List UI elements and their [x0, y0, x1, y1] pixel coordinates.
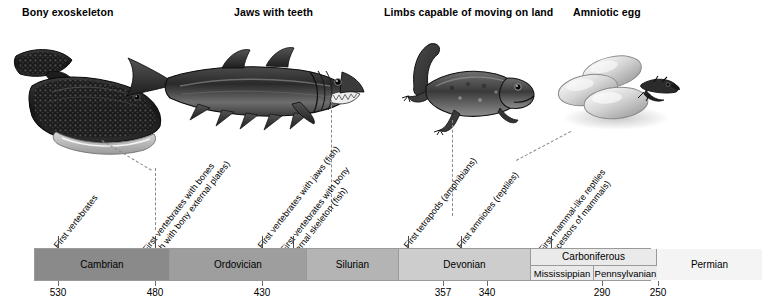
period-silurian[interactable]: Silurian: [307, 249, 399, 280]
event-tick-first-vertebrates: [58, 236, 59, 248]
leader-line-armored-fish-drop: [155, 168, 156, 230]
axis-tick-250: [658, 281, 659, 286]
subperiod-mississippian[interactable]: Mississippian: [531, 265, 594, 280]
axis-tick-290: [602, 281, 603, 286]
period-label: Silurian: [307, 259, 398, 270]
period-cambrian[interactable]: Cambrian: [35, 249, 170, 280]
feature-heading-limbs-on-land: Limbs capable of moving on land: [384, 6, 553, 18]
illustration-tetrapod-amphibian: [396, 38, 536, 138]
period-label: Cambrian: [35, 259, 169, 270]
period-carboniferous[interactable]: Carboniferous Mississippian Pennsylvania…: [531, 249, 657, 280]
event-tick-first-tetrapods: [408, 236, 409, 248]
event-line: (fish with bony external plates): [149, 159, 232, 261]
feature-heading-jaws-with-teeth: Jaws with teeth: [234, 6, 313, 18]
feature-heading-amniotic-egg: Amniotic egg: [573, 6, 641, 18]
axis-date-357: 357: [423, 287, 463, 298]
axis-tick-357: [443, 281, 444, 286]
axis-date-430: 430: [242, 287, 282, 298]
axis-date-250: 250: [638, 287, 678, 298]
axis-date-480: 480: [135, 287, 175, 298]
subperiod-label: Mississippian: [531, 268, 593, 279]
period-label: Carboniferous: [531, 251, 656, 262]
event-label-first-mammal-like-reptiles: First mammal-like reptiles (ancestors of…: [536, 167, 616, 261]
period-label: Permian: [657, 259, 762, 270]
event-line: First amniotes (reptiles): [455, 170, 521, 251]
period-label: Devonian: [399, 259, 530, 270]
subperiod-pennsylvanian[interactable]: Pennsylvanian: [594, 265, 657, 280]
axis-date-530: 530: [38, 287, 78, 298]
event-tick-first-amniotes: [461, 236, 462, 248]
event-tick-first-mammal-like-reptiles: [551, 236, 552, 248]
geologic-timeline-bar: Cambrian Ordovician Silurian Devonian Ca…: [34, 248, 651, 281]
axis-tick-480: [155, 281, 156, 286]
subperiod-label: Pennsylvanian: [594, 268, 657, 279]
leader-line-tetrapod: [452, 120, 453, 216]
axis-tick-340: [487, 281, 488, 286]
axis-tick-530: [58, 281, 59, 286]
feature-heading-bony-exoskeleton: Bony exoskeleton: [22, 6, 113, 18]
axis-date-290: 290: [582, 287, 622, 298]
period-permian[interactable]: Permian: [657, 249, 762, 280]
period-ordovician[interactable]: Ordovician: [170, 249, 307, 280]
event-label-first-amniotes: First amniotes (reptiles): [455, 170, 521, 251]
event-line: First vertebrates with bones: [140, 152, 223, 254]
illustration-jawed-fish: [124, 42, 374, 134]
illustration-amniotic-eggs: [550, 40, 682, 134]
period-label: Ordovician: [170, 259, 306, 270]
event-line: First mammal-like reptiles: [536, 167, 607, 254]
event-tick-first-vertebrates-with-jaws: [262, 236, 263, 248]
event-tick-first-vertebrates-with-bones: [155, 236, 156, 248]
period-devonian[interactable]: Devonian: [399, 249, 531, 280]
axis-tick-430: [262, 281, 263, 286]
axis-date-340: 340: [467, 287, 507, 298]
event-tick-first-bony-internal-skeleton: [293, 236, 294, 248]
